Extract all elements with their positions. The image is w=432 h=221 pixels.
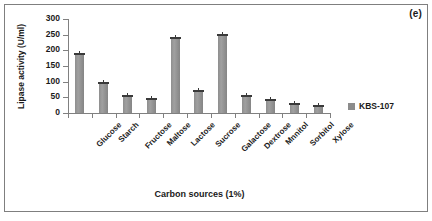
bar-slot xyxy=(187,19,211,113)
legend-label-kbs-107: KBS-107 xyxy=(359,101,394,111)
bar-slot xyxy=(282,19,306,113)
chart-legend: KBS-107 xyxy=(348,101,394,111)
plot-area xyxy=(68,19,330,113)
x-tick-mark xyxy=(187,114,188,118)
y-tick-label-wrap: 50 xyxy=(0,92,60,102)
y-tick-label: 100 xyxy=(2,77,60,86)
bar-slot xyxy=(235,19,259,113)
bar-slot xyxy=(68,19,92,113)
bar-slot xyxy=(259,19,283,113)
error-bar-stem xyxy=(318,103,319,106)
panel-letter: (e) xyxy=(409,8,422,19)
bar-galactose xyxy=(218,36,227,113)
x-tick-mark xyxy=(92,114,93,118)
error-bar-stem xyxy=(270,97,271,100)
bar-xylose xyxy=(314,107,323,113)
y-tick-label-wrap: 250 xyxy=(0,30,60,40)
x-tick-mark xyxy=(306,114,307,118)
bar-lactose xyxy=(171,39,180,113)
x-tick-mark xyxy=(163,114,164,118)
error-bar-stem xyxy=(175,35,176,38)
x-tick-mark xyxy=(330,114,331,118)
bar-slot xyxy=(211,19,235,113)
y-tick-label-wrap: 150 xyxy=(0,61,60,71)
x-tick-mark xyxy=(116,114,117,118)
bar-slot xyxy=(163,19,187,113)
error-bar-stem xyxy=(198,88,199,91)
y-tick-label: 50 xyxy=(2,92,60,101)
x-tick-mark xyxy=(139,114,140,118)
x-tick-mark xyxy=(282,114,283,118)
error-bar-stem xyxy=(127,93,128,96)
error-bar-stem xyxy=(246,93,247,96)
y-tick-label-wrap: 0 xyxy=(0,108,60,118)
error-bar-stem xyxy=(151,96,152,99)
bar-mnnitol xyxy=(266,101,275,113)
error-bar-stem xyxy=(294,101,295,104)
x-axis-line xyxy=(68,113,331,114)
x-tick-mark xyxy=(235,114,236,118)
y-tick-label: 250 xyxy=(2,30,60,39)
error-bar-stem xyxy=(79,51,80,54)
x-tick-mark xyxy=(259,114,260,118)
bar-sorbitol xyxy=(290,105,299,113)
bar-slot xyxy=(139,19,163,113)
y-axis-ticks: 300250200150100500 xyxy=(0,0,68,221)
y-tick-label: 0 xyxy=(2,108,60,117)
y-tick-label-wrap: 300 xyxy=(0,14,60,24)
bar-starch xyxy=(99,84,108,113)
bar-sucrose xyxy=(194,92,203,113)
error-bar-stem xyxy=(103,80,104,83)
y-tick-label: 150 xyxy=(2,61,60,70)
bar-fructose xyxy=(123,97,132,113)
bar-maltose xyxy=(147,100,156,113)
legend-swatch-kbs-107 xyxy=(348,103,355,110)
y-tick-label-wrap: 100 xyxy=(0,77,60,87)
bar-slot xyxy=(306,19,330,113)
y-tick-label: 200 xyxy=(2,45,60,54)
x-tick-mark xyxy=(68,114,69,118)
bar-slot xyxy=(92,19,116,113)
y-tick-label: 300 xyxy=(2,14,60,23)
error-bar-stem xyxy=(222,32,223,35)
bar-glucose xyxy=(75,55,84,113)
x-axis-title: Carbon sources (1%) xyxy=(68,189,331,199)
x-tick-mark xyxy=(211,114,212,118)
y-tick-label-wrap: 200 xyxy=(0,45,60,55)
figure-container: (e) Lipase activity (U/ml) 3002502001501… xyxy=(0,0,432,221)
bar-dextrose xyxy=(242,97,251,113)
bar-slot xyxy=(116,19,140,113)
